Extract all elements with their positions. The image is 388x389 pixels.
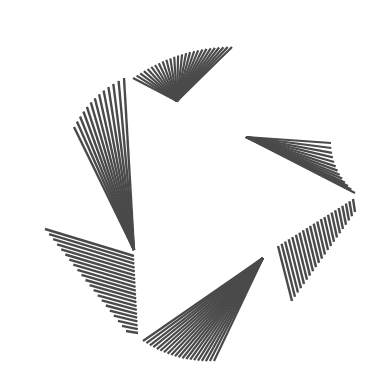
fan-line <box>346 204 349 221</box>
fan-top <box>133 47 232 101</box>
fan-line <box>246 137 355 193</box>
fan-left-upper <box>74 78 134 250</box>
fan-logo-artwork <box>0 0 388 389</box>
fan-line <box>122 326 138 329</box>
fan-right <box>246 137 355 193</box>
fan-line <box>49 234 134 260</box>
fan-bottom <box>143 258 263 361</box>
fan-line <box>45 229 134 256</box>
fan-line <box>126 331 138 333</box>
fan-left-lower <box>45 229 138 333</box>
fan-line <box>349 201 352 216</box>
fan-line <box>353 199 355 212</box>
fan-line <box>317 221 325 254</box>
fan-line <box>342 206 346 225</box>
fan-right-lower <box>278 199 355 301</box>
